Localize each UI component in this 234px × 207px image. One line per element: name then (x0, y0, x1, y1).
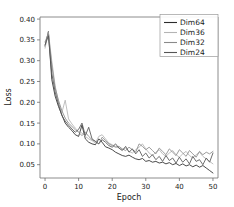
legend-label-dim32: Dim32 (180, 38, 205, 47)
y-tick-label: 0.40 (19, 16, 35, 24)
x-tick-label: 20 (108, 183, 117, 191)
y-tick-label: 0.35 (19, 36, 35, 44)
y-axis-label: Loss (4, 88, 13, 106)
y-tick-label: 0.30 (19, 57, 35, 65)
x-tick-label: 30 (141, 183, 150, 191)
legend-label-dim36: Dim36 (180, 28, 205, 37)
y-tick-label: 0.20 (19, 99, 35, 107)
y-tick-group: 0.050.100.150.200.250.300.350.40 (19, 16, 40, 170)
y-tick-label: 0.15 (19, 120, 35, 128)
y-tick-label: 0.10 (19, 140, 35, 148)
x-tick-group: 01020304050 (43, 178, 218, 191)
loss-chart-figure: 01020304050 0.050.100.150.200.250.300.35… (0, 0, 234, 207)
x-tick-label: 40 (175, 183, 184, 191)
y-tick-label: 0.05 (19, 161, 35, 169)
x-axis-label: Epoch (117, 193, 142, 202)
y-tick-label: 0.25 (19, 78, 35, 86)
line-chart: 01020304050 0.050.100.150.200.250.300.35… (0, 0, 234, 207)
legend-label-dim24: Dim24 (180, 48, 205, 57)
x-tick-label: 10 (74, 183, 83, 191)
legend: Dim64Dim36Dim32Dim24 (160, 15, 218, 58)
x-tick-label: 50 (209, 183, 218, 191)
legend-label-dim64: Dim64 (180, 18, 205, 27)
x-tick-label: 0 (43, 183, 47, 191)
